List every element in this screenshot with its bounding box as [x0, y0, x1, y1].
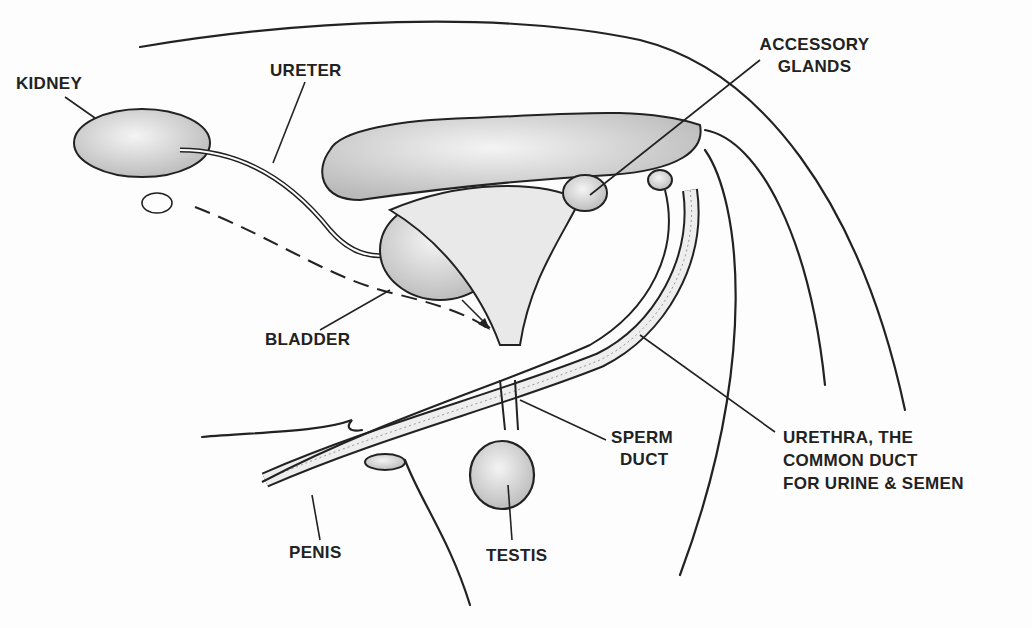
label-urethra-line3: FOR URINE & SEMEN — [783, 473, 964, 495]
label-bladder: BLADDER — [265, 329, 350, 351]
kidney-shape — [74, 109, 210, 177]
reproductive-system-diagram: KIDNEY URETER ACCESSORY GLANDS BLADDER S… — [0, 0, 1032, 628]
hind-leg — [405, 460, 470, 605]
label-penis: PENIS — [289, 542, 342, 564]
label-urethra-line1: URETHRA, THE — [783, 427, 913, 449]
label-accessory-glands-line2: GLANDS — [752, 56, 877, 78]
label-sperm-duct-line2: DUCT — [620, 449, 668, 471]
testis-shape — [470, 441, 534, 509]
belly-line — [202, 420, 362, 437]
label-kidney: KIDNEY — [16, 73, 82, 95]
label-ureter: URETER — [270, 60, 342, 82]
label-testis: TESTIS — [486, 545, 547, 567]
label-urethra-line2: COMMON DUCT — [783, 450, 918, 472]
label-sperm-duct-line1: SPERM — [611, 427, 673, 449]
anatomy-drawing — [0, 0, 1032, 628]
label-accessory-glands-line1: ACCESSORY — [752, 34, 877, 56]
